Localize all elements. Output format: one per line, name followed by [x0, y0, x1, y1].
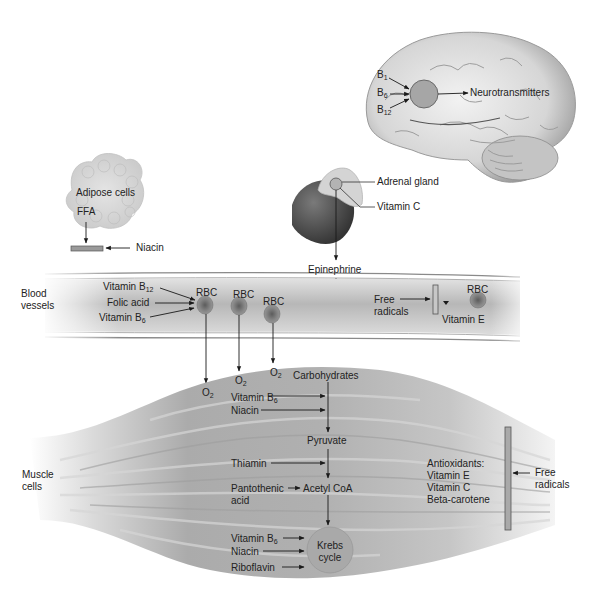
muscle-vitamin-b6-label: Vitamin B6	[231, 392, 278, 404]
brain-illustration	[366, 32, 575, 182]
adipose-niacin-label: Niacin	[136, 242, 164, 254]
vessel-free-radicals-label: Freeradicals	[374, 294, 408, 318]
krebs-cycle-label: Krebscycle	[315, 540, 345, 564]
folic-acid-label: Folic acid	[107, 297, 149, 309]
neurotransmitters-label: Neurotransmitters	[470, 87, 549, 99]
muscle-cells-label: Musclecells	[22, 469, 54, 493]
pyruvate-label: Pyruvate	[307, 435, 346, 447]
epinephrine-label: Epinephrine	[308, 264, 361, 276]
rbc-label-3: RBC	[263, 296, 284, 308]
rbc-label-2: RBC	[233, 289, 254, 301]
adipose-illustration	[66, 154, 143, 252]
antioxidants-label: Antioxidants: Vitamin E Vitamin C Beta-c…	[427, 458, 490, 506]
muscle-free-radicals-label: Freeradicals	[535, 467, 569, 491]
o2-label-2: O2	[235, 375, 247, 387]
vitamin-b6-label: Vitamin B6	[99, 312, 146, 324]
riboflavin-label: Riboflavin	[231, 562, 275, 574]
vitamin-c-label: Vitamin C	[377, 201, 420, 213]
krebs-vitamin-b6-label: Vitamin B6	[231, 533, 278, 545]
blood-vessels-label: Bloodvessels	[21, 288, 54, 312]
o2-label-1: O2	[202, 387, 214, 399]
rbc-label-4: RBC	[467, 284, 488, 296]
vitamin-e-label: Vitamin E	[442, 314, 485, 326]
o2-label-3: O2	[270, 367, 282, 379]
muscle-niacin-label: Niacin	[231, 405, 259, 417]
vitamin-b12-label: Vitamin B12	[103, 281, 153, 293]
carbohydrates-label: Carbohydrates	[293, 370, 359, 382]
pantothenic-acid-label: Pantothenicacid	[231, 483, 284, 507]
brain-input-b12: B12	[377, 104, 391, 116]
brain-input-b6: B6	[377, 87, 388, 99]
thiamin-label: Thiamin	[231, 458, 267, 470]
adrenal-gland-label: Adrenal gland	[377, 176, 439, 188]
acetyl-coa-label: Acetyl CoA	[303, 483, 352, 495]
brain-input-b1: B1	[377, 69, 388, 81]
rbc-label-1: RBC	[196, 287, 217, 299]
ffa-label: FFA	[77, 206, 95, 218]
krebs-niacin-label: Niacin	[231, 546, 259, 558]
adipose-cells-label: Adipose cells	[76, 187, 135, 199]
